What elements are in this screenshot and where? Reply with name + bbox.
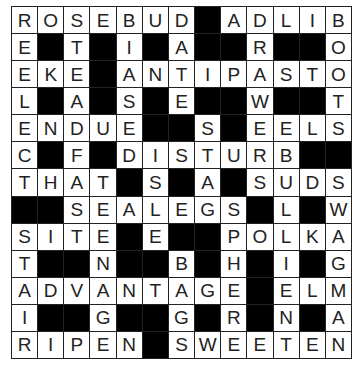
- letter-cell[interactable]: F: [64, 142, 89, 168]
- letter-cell[interactable]: T: [12, 169, 37, 195]
- letter-cell[interactable]: I: [143, 142, 168, 168]
- letter-cell[interactable]: S: [64, 197, 89, 223]
- letter-cell[interactable]: A: [169, 34, 194, 60]
- letter-cell[interactable]: G: [326, 251, 351, 277]
- letter-cell[interactable]: E: [300, 332, 325, 358]
- letter-cell[interactable]: B: [169, 251, 194, 277]
- letter-cell[interactable]: N: [38, 115, 63, 141]
- letter-cell[interactable]: A: [117, 197, 142, 223]
- letter-cell[interactable]: T: [195, 142, 220, 168]
- letter-cell[interactable]: T: [12, 251, 37, 277]
- letter-cell[interactable]: E: [90, 7, 115, 33]
- letter-cell[interactable]: N: [326, 332, 351, 358]
- letter-cell[interactable]: E: [221, 332, 246, 358]
- letter-cell[interactable]: N: [90, 251, 115, 277]
- letter-cell[interactable]: T: [90, 169, 115, 195]
- letter-cell[interactable]: I: [38, 332, 63, 358]
- letter-cell[interactable]: B: [274, 142, 299, 168]
- letter-cell[interactable]: I: [300, 7, 325, 33]
- letter-cell[interactable]: E: [117, 115, 142, 141]
- letter-cell[interactable]: E: [247, 332, 272, 358]
- letter-cell[interactable]: R: [247, 34, 272, 60]
- letter-cell[interactable]: A: [326, 224, 351, 250]
- letter-cell[interactable]: P: [221, 61, 246, 87]
- letter-cell[interactable]: L: [300, 115, 325, 141]
- letter-cell[interactable]: S: [274, 61, 299, 87]
- letter-cell[interactable]: A: [195, 169, 220, 195]
- letter-cell[interactable]: U: [274, 169, 299, 195]
- letter-cell[interactable]: G: [169, 305, 194, 331]
- letter-cell[interactable]: G: [90, 305, 115, 331]
- letter-cell[interactable]: E: [12, 115, 37, 141]
- letter-cell[interactable]: S: [12, 224, 37, 250]
- letter-cell[interactable]: O: [326, 61, 351, 87]
- letter-cell[interactable]: T: [64, 224, 89, 250]
- letter-cell[interactable]: A: [247, 61, 272, 87]
- letter-cell[interactable]: S: [326, 169, 351, 195]
- letter-cell[interactable]: T: [64, 34, 89, 60]
- letter-cell[interactable]: T: [326, 88, 351, 114]
- letter-cell[interactable]: S: [195, 115, 220, 141]
- letter-cell[interactable]: A: [12, 278, 37, 304]
- letter-cell[interactable]: P: [64, 332, 89, 358]
- letter-cell[interactable]: H: [38, 169, 63, 195]
- letter-cell[interactable]: L: [274, 7, 299, 33]
- letter-cell[interactable]: A: [90, 278, 115, 304]
- letter-cell[interactable]: A: [117, 61, 142, 87]
- letter-cell[interactable]: A: [64, 169, 89, 195]
- letter-cell[interactable]: D: [64, 115, 89, 141]
- letter-cell[interactable]: E: [12, 61, 37, 87]
- letter-cell[interactable]: E: [90, 224, 115, 250]
- letter-cell[interactable]: N: [117, 278, 142, 304]
- letter-cell[interactable]: D: [247, 7, 272, 33]
- letter-cell[interactable]: U: [143, 7, 168, 33]
- letter-cell[interactable]: U: [221, 142, 246, 168]
- letter-cell[interactable]: K: [300, 224, 325, 250]
- letter-cell[interactable]: R: [12, 332, 37, 358]
- letter-cell[interactable]: S: [64, 7, 89, 33]
- letter-cell[interactable]: T: [274, 332, 299, 358]
- letter-cell[interactable]: U: [90, 115, 115, 141]
- letter-cell[interactable]: N: [274, 305, 299, 331]
- letter-cell[interactable]: S: [169, 332, 194, 358]
- letter-cell[interactable]: W: [195, 332, 220, 358]
- letter-cell[interactable]: A: [169, 278, 194, 304]
- letter-cell[interactable]: A: [326, 305, 351, 331]
- letter-cell[interactable]: S: [326, 115, 351, 141]
- letter-cell[interactable]: D: [117, 142, 142, 168]
- letter-cell[interactable]: P: [221, 224, 246, 250]
- letter-cell[interactable]: E: [90, 197, 115, 223]
- letter-cell[interactable]: I: [274, 251, 299, 277]
- letter-cell[interactable]: E: [274, 278, 299, 304]
- letter-cell[interactable]: E: [64, 61, 89, 87]
- letter-cell[interactable]: I: [195, 61, 220, 87]
- letter-cell[interactable]: N: [143, 61, 168, 87]
- letter-cell[interactable]: B: [117, 7, 142, 33]
- letter-cell[interactable]: R: [247, 142, 272, 168]
- letter-cell[interactable]: N: [117, 332, 142, 358]
- letter-cell[interactable]: G: [195, 197, 220, 223]
- letter-cell[interactable]: S: [169, 142, 194, 168]
- letter-cell[interactable]: T: [143, 278, 168, 304]
- letter-cell[interactable]: D: [169, 7, 194, 33]
- letter-cell[interactable]: C: [12, 142, 37, 168]
- letter-cell[interactable]: V: [64, 278, 89, 304]
- letter-cell[interactable]: B: [326, 7, 351, 33]
- letter-cell[interactable]: R: [221, 305, 246, 331]
- letter-cell[interactable]: T: [300, 61, 325, 87]
- letter-cell[interactable]: E: [169, 88, 194, 114]
- letter-cell[interactable]: G: [195, 278, 220, 304]
- letter-cell[interactable]: R: [12, 7, 37, 33]
- letter-cell[interactable]: I: [38, 224, 63, 250]
- letter-cell[interactable]: O: [247, 224, 272, 250]
- letter-cell[interactable]: L: [143, 197, 168, 223]
- letter-cell[interactable]: S: [221, 197, 246, 223]
- letter-cell[interactable]: L: [274, 197, 299, 223]
- letter-cell[interactable]: L: [12, 88, 37, 114]
- letter-cell[interactable]: K: [38, 61, 63, 87]
- letter-cell[interactable]: H: [221, 251, 246, 277]
- letter-cell[interactable]: A: [221, 7, 246, 33]
- letter-cell[interactable]: A: [64, 88, 89, 114]
- letter-cell[interactable]: S: [143, 169, 168, 195]
- letter-cell[interactable]: D: [300, 169, 325, 195]
